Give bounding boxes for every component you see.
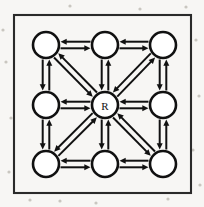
arrow-head xyxy=(157,84,163,90)
paper-speck xyxy=(94,201,97,204)
arrow-forward xyxy=(61,105,91,111)
paper-speck xyxy=(7,170,10,173)
arrow-forward xyxy=(40,120,46,150)
edge-e-ml-bl xyxy=(40,120,53,150)
arrow-shaft xyxy=(121,117,155,152)
node-n-center[interactable]: R xyxy=(92,92,118,118)
arrow-head xyxy=(142,105,148,111)
arrow-reverse xyxy=(105,60,111,91)
edge-e-br-c xyxy=(113,113,155,156)
node-n-bottom-left[interactable] xyxy=(33,151,59,177)
arrow-reverse xyxy=(117,58,155,97)
arrow-head xyxy=(163,60,169,66)
arrow-head xyxy=(99,143,105,149)
edge-e-c-mr xyxy=(120,99,149,112)
node-circle[interactable] xyxy=(150,151,176,177)
paper-speck xyxy=(1,28,4,31)
arrow-forward xyxy=(99,60,105,91)
edge-e-tl-c xyxy=(54,53,97,97)
arrow-reverse xyxy=(105,120,111,150)
arrow-head xyxy=(105,60,111,66)
node-n-top-right[interactable] xyxy=(150,32,176,58)
arrow-reverse xyxy=(46,120,52,150)
edge-e-tr-c xyxy=(113,53,155,96)
paper-speck xyxy=(198,183,201,186)
edge-e-bl-c xyxy=(54,113,97,156)
arrow-reverse xyxy=(113,117,151,155)
arrow-forward xyxy=(157,120,163,150)
arrow-head xyxy=(157,143,163,149)
arrow-shaft xyxy=(117,61,152,97)
arrow-reverse xyxy=(54,113,92,151)
arrow-reverse xyxy=(163,120,169,150)
paper-speck xyxy=(138,7,141,10)
paper-speck xyxy=(184,5,187,8)
arrow-reverse xyxy=(163,60,169,91)
arrow-forward xyxy=(120,105,149,111)
paper-speck xyxy=(9,116,12,119)
arrow-shaft xyxy=(54,57,89,93)
arrow-forward xyxy=(113,53,151,92)
arrow-head xyxy=(105,120,111,126)
arrow-reverse xyxy=(46,60,52,91)
node-circle[interactable] xyxy=(33,92,59,118)
arrow-head xyxy=(163,120,169,126)
arrow-forward xyxy=(40,60,46,91)
arrow-shaft xyxy=(57,113,92,148)
paper-speck xyxy=(194,38,197,41)
arrow-forward xyxy=(99,120,105,150)
node-circle[interactable] xyxy=(33,151,59,177)
arrow-forward xyxy=(61,164,91,170)
arrow-shaft xyxy=(116,53,151,89)
node-circle[interactable] xyxy=(33,32,59,58)
edge-e-tl-ml xyxy=(40,60,53,91)
arrow-head xyxy=(61,99,67,105)
node-circle[interactable] xyxy=(92,151,118,177)
arrow-forward xyxy=(54,57,93,96)
arrow-head xyxy=(46,120,52,126)
node-circle[interactable] xyxy=(92,32,118,58)
paper-speck xyxy=(197,94,200,97)
arrow-reverse xyxy=(61,99,91,105)
paper-speck xyxy=(4,60,7,63)
node-n-bottom-right[interactable] xyxy=(150,151,176,177)
paper-speck xyxy=(58,199,61,202)
arrow-head xyxy=(120,158,126,164)
arrow-forward xyxy=(117,113,155,151)
node-n-top-left[interactable] xyxy=(33,32,59,58)
arrow-head xyxy=(120,39,126,45)
arrow-head xyxy=(84,164,90,170)
arrow-reverse xyxy=(58,53,97,92)
arrow-reverse xyxy=(120,158,149,164)
arrow-head xyxy=(40,84,46,90)
arrow-shaft xyxy=(58,121,93,156)
arrow-forward xyxy=(58,117,96,155)
edge-e-tr-mr xyxy=(157,60,170,91)
edge-e-tc-c xyxy=(99,60,112,91)
arrow-head xyxy=(84,105,90,111)
node-circle[interactable] xyxy=(150,32,176,58)
arrow-shaft xyxy=(113,117,147,152)
arrow-head xyxy=(40,143,46,149)
edge-e-tc-tr xyxy=(120,39,149,52)
arrow-forward xyxy=(157,60,163,91)
edge-e-bc-br xyxy=(120,158,149,171)
arrow-head xyxy=(61,39,67,45)
node-n-middle-left[interactable] xyxy=(33,92,59,118)
arrow-forward xyxy=(120,164,149,170)
edge-e-mr-br xyxy=(157,120,170,150)
arrow-forward xyxy=(61,45,91,51)
arrow-reverse xyxy=(61,39,91,45)
node-circle[interactable] xyxy=(150,92,176,118)
node-n-top-center[interactable] xyxy=(92,32,118,58)
paper-speck xyxy=(28,198,31,201)
paper-speck xyxy=(166,197,169,200)
graph-diagram: R xyxy=(0,0,204,207)
diagram-canvas: R xyxy=(0,0,204,207)
node-n-middle-right[interactable] xyxy=(150,92,176,118)
node-n-bottom-center[interactable] xyxy=(92,151,118,177)
arrow-reverse xyxy=(120,99,149,105)
edge-e-c-bc xyxy=(99,120,112,150)
edge-e-tl-tc xyxy=(61,39,91,52)
arrow-shaft xyxy=(62,57,97,93)
